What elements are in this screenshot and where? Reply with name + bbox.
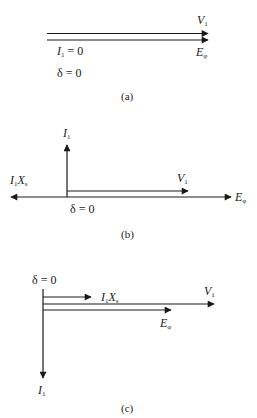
phasor-diagram-canvas <box>0 0 257 418</box>
caption-c: (c) <box>121 403 133 414</box>
label-i1-zero-a: I1 = 0 <box>57 45 83 59</box>
panel-b-phasors <box>11 145 231 197</box>
label-i1xs-c: I1Xs <box>101 291 119 305</box>
label-v1-b: V1 <box>177 172 188 186</box>
label-i1xs-b: I1Xs <box>10 174 28 188</box>
panel-a-phasors <box>47 34 208 41</box>
panel-c-phasors <box>43 289 214 378</box>
label-i1-b: I1 <box>63 127 71 141</box>
label-delta-zero-b: δ = 0 <box>70 203 94 215</box>
label-delta-zero-c: δ = 0 <box>32 274 56 286</box>
label-i1-c: I1 <box>38 384 46 398</box>
label-ephi-a: Eφ <box>196 46 207 60</box>
caption-b: (b) <box>121 229 134 240</box>
label-ephi-c: Eφ <box>160 317 171 331</box>
label-v1-c: V1 <box>204 285 215 299</box>
label-ephi-b: Eφ <box>235 191 246 205</box>
label-v1-a: V1 <box>197 14 208 28</box>
caption-a: (a) <box>121 91 133 102</box>
label-delta-zero-a: δ = 0 <box>57 67 81 79</box>
